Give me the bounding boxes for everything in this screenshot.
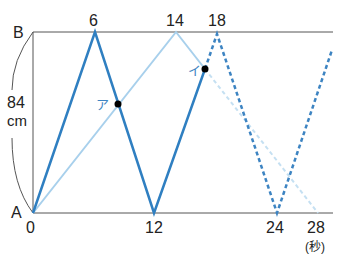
tick-24: 24 xyxy=(266,219,284,236)
label-b: B xyxy=(13,24,24,41)
label-distance: 84 xyxy=(7,94,25,111)
label-point-a: ア xyxy=(96,97,109,112)
point-i-dot xyxy=(202,66,209,73)
tick-6: 6 xyxy=(89,12,98,29)
point-a-dot xyxy=(115,101,122,108)
label-unit: cm xyxy=(7,112,27,129)
dark-solid-line xyxy=(33,32,205,213)
label-a: A xyxy=(11,204,22,221)
label-point-i: イ xyxy=(188,63,201,78)
distance-time-diagram: B A 84 cm 6 14 18 0 12 24 28 (秒) ア イ xyxy=(0,0,339,257)
tick-0: 0 xyxy=(26,219,35,236)
tick-18: 18 xyxy=(208,12,226,29)
time-unit: (秒) xyxy=(305,240,325,254)
tick-14: 14 xyxy=(166,12,184,29)
tick-12: 12 xyxy=(145,219,163,236)
light-solid-line xyxy=(33,32,205,213)
dark-dashed-line xyxy=(205,34,332,213)
tick-28: 28 xyxy=(307,219,325,236)
